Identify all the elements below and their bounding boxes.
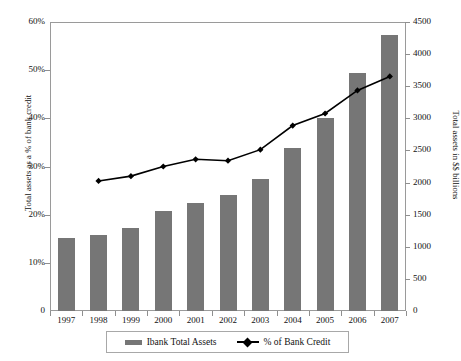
left-tick-label: 60%: [8, 16, 45, 26]
x-tick-mark: [374, 311, 375, 316]
legend-label-pct-of-bank-credit: % of Bank Credit: [264, 337, 331, 347]
right-tick-label: 3500: [413, 80, 453, 90]
right-tick-label: 3000: [413, 112, 453, 122]
right-tick-label: 4500: [413, 16, 453, 26]
x-tick-mark: [212, 311, 213, 316]
left-tick-label: 40%: [8, 112, 45, 122]
x-tick-mark: [406, 311, 407, 316]
x-tick-mark: [277, 311, 278, 316]
left-tick-label: 20%: [8, 209, 45, 219]
line-path: [99, 76, 390, 181]
legend-bar-swatch-icon: [125, 340, 142, 345]
x-tick-label: 2007: [370, 315, 410, 325]
legend-line-marker-icon: [237, 338, 259, 346]
legend-item-ibank-total-assets: Ibank Total Assets: [125, 337, 217, 347]
chart-legend: Ibank Total Assets % of Bank Credit: [106, 331, 349, 353]
right-tick-label: 0: [413, 305, 453, 315]
right-tick-label: 500: [413, 273, 453, 283]
line-data-point-marker: [387, 73, 393, 79]
right-tick-label: 4000: [413, 48, 453, 58]
x-tick-mark: [244, 311, 245, 316]
line-series-pct-of-bank-credit: [50, 22, 406, 311]
x-tick-mark: [115, 311, 116, 316]
right-tick-label: 1000: [413, 241, 453, 251]
left-tick-label: 30%: [8, 161, 45, 171]
line-data-point-marker: [225, 158, 231, 164]
line-data-point-marker: [160, 163, 166, 169]
legend-label-ibank-total-assets: Ibank Total Assets: [147, 337, 217, 347]
x-tick-mark: [309, 311, 310, 316]
x-tick-mark: [50, 311, 51, 316]
x-tick-mark: [82, 311, 83, 316]
right-tick-label: 2000: [413, 177, 453, 187]
left-tick-label: 10%: [8, 257, 45, 267]
legend-item-pct-of-bank-credit: % of Bank Credit: [237, 337, 331, 347]
left-tick-label: 50%: [8, 64, 45, 74]
x-tick-mark: [147, 311, 148, 316]
line-data-point-marker: [193, 156, 199, 162]
left-tick-label: 0: [8, 305, 45, 315]
x-tick-mark: [179, 311, 180, 316]
right-tick-label: 2500: [413, 144, 453, 154]
x-tick-mark: [341, 311, 342, 316]
right-tick-label: 1500: [413, 209, 453, 219]
line-data-point-marker: [128, 173, 134, 179]
line-data-point-marker: [95, 178, 101, 184]
